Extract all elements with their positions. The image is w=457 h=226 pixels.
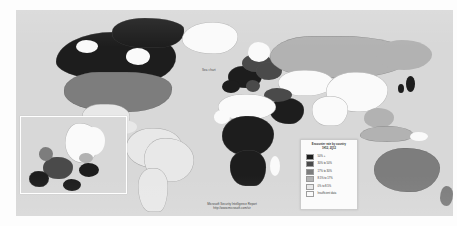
- legend-label: 17% to 30%: [318, 170, 333, 174]
- europe-inset-map: [20, 116, 127, 194]
- legend-item: 0% to 8.5%: [306, 184, 357, 190]
- attribution-url: http://www.microsoft.com/sir: [176, 206, 288, 210]
- legend-item: 17% to 30%: [306, 169, 357, 175]
- region-australia: [374, 148, 440, 192]
- region-hudson-bay: [126, 48, 150, 65]
- legend-swatch: [306, 161, 314, 167]
- legend-label: 50% +: [318, 155, 326, 159]
- inset-region-finland: [83, 127, 105, 155]
- region-papua: [410, 132, 428, 141]
- region-canada-arctic: [112, 18, 184, 48]
- region-siberia-east: [376, 40, 432, 70]
- legend-item: 30% to 50%: [306, 161, 357, 167]
- region-india: [312, 96, 348, 126]
- main-map: Sea chart Encounter rate by country 1H12…: [16, 10, 453, 216]
- legend-item: Insufficient data: [306, 191, 357, 197]
- region-scandinavia: [248, 42, 270, 62]
- legend-label: 0% to 8.5%: [318, 185, 332, 189]
- legend-swatch: [306, 184, 314, 190]
- legend-label: 8.5% to 17%: [318, 177, 333, 181]
- inset-region-iberia: [29, 171, 49, 187]
- region-italy: [246, 80, 260, 92]
- inset-region-baltic: [79, 153, 93, 163]
- inset-region-italy: [63, 179, 81, 191]
- legend-label: 30% to 50%: [318, 162, 333, 166]
- region-southern-africa: [230, 150, 266, 186]
- region-korea: [398, 84, 404, 93]
- legend-title: Encounter rate by country: [305, 143, 353, 146]
- region-west-africa-coast: [214, 110, 230, 124]
- legend-item: 8.5% to 17%: [306, 176, 357, 182]
- legend-subtitle: 1H12, 2Q12: [305, 147, 353, 150]
- world-map-figure: Sea chart Encounter rate by country 1H12…: [0, 0, 457, 226]
- legend-swatch: [306, 191, 314, 197]
- region-south-america-south: [138, 168, 168, 212]
- inset-region-eastern-europe: [79, 163, 99, 177]
- legend-item: 50% +: [306, 154, 357, 160]
- region-southeast-asia: [364, 108, 394, 128]
- region-madagascar: [270, 156, 280, 176]
- region-new-zealand: [440, 186, 453, 206]
- legend-swatch: [306, 154, 314, 160]
- region-alaska-interior: [76, 40, 98, 53]
- region-greenland: [182, 22, 238, 54]
- region-japan: [406, 76, 415, 92]
- legend-swatch: [306, 169, 314, 175]
- map-text-label: Sea chart: [202, 68, 216, 72]
- attribution: Microsoft Security Intelligence Report h…: [176, 202, 288, 210]
- region-indonesia: [360, 126, 414, 142]
- region-iberia: [222, 80, 240, 93]
- legend-label: Insufficient data: [318, 192, 337, 196]
- inset-region-uk: [39, 147, 53, 161]
- legend-panel: Encounter rate by country 1H12, 2Q12 50%…: [300, 139, 358, 210]
- legend-swatch: [306, 176, 314, 182]
